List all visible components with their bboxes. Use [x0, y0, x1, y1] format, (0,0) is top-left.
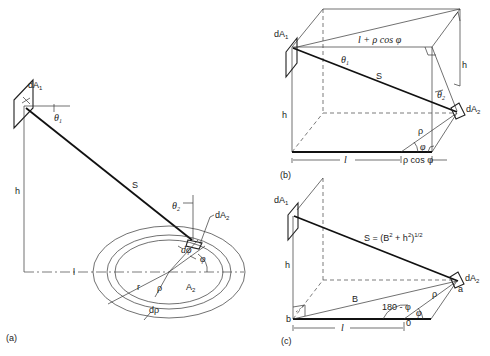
s-line-b: [293, 48, 457, 112]
caption-c: (c): [281, 336, 292, 346]
s-line-a: [26, 108, 192, 240]
svg-text:φ: φ: [416, 307, 422, 318]
svg-text:ρ: ρ: [418, 126, 423, 136]
svg-text:φ: φ: [200, 253, 206, 264]
s-label-a: S: [132, 180, 138, 190]
svg-text:180 - φ: 180 - φ: [382, 302, 411, 312]
s-line-c: [294, 216, 458, 281]
svg-text:ρ: ρ: [432, 289, 437, 299]
svg-text:dA2: dA2: [215, 210, 230, 221]
svg-text:dA1: dA1: [274, 29, 289, 40]
panel-a: dA1 θ1 h S θ2 dA2 dφ φ l r ρ A2 dρ (a): [6, 80, 245, 343]
svg-text:dA1: dA1: [28, 80, 43, 91]
svg-text:dρ: dρ: [149, 305, 159, 315]
svg-text:B: B: [352, 294, 358, 304]
svg-text:S: S: [376, 71, 382, 81]
svg-text:θ2: θ2: [172, 200, 180, 212]
caption-b: (b): [280, 170, 291, 180]
panel-c: dA1 S = (B2 + h2)1/2 h B dA2 a ρ 180 - φ…: [274, 178, 480, 346]
svg-text:l: l: [341, 322, 344, 333]
svg-text:h: h: [462, 60, 467, 70]
svg-text:θ2: θ2: [437, 89, 445, 101]
svg-text:θ1: θ1: [341, 54, 349, 66]
svg-text:φ: φ: [420, 141, 426, 152]
panel-b: dA1 l + ρ cos φ θ1 S h h θ2 dA2 ρ φ l ρ …: [274, 9, 481, 180]
s-equation: S = (B2 + h2)1/2: [364, 232, 423, 243]
svg-text:dφ: dφ: [181, 244, 192, 255]
svg-text:dA2: dA2: [466, 104, 481, 115]
svg-text:dA1: dA1: [274, 195, 289, 206]
h-label-a: h: [15, 186, 20, 196]
svg-text:l: l: [73, 267, 75, 277]
svg-text:r: r: [137, 282, 140, 292]
svg-text:a: a: [458, 284, 463, 294]
svg-text:A2: A2: [186, 282, 196, 293]
svg-text:l: l: [344, 154, 347, 165]
svg-text:dA2: dA2: [465, 273, 480, 284]
svg-text:θ1: θ1: [54, 112, 62, 124]
da1-plate-b: [286, 38, 297, 77]
l-plus-rho-cos-label: l + ρ cos φ: [358, 34, 402, 45]
svg-text:h: h: [285, 260, 290, 270]
svg-text:h: h: [282, 110, 287, 120]
svg-text:ρ cos φ: ρ cos φ: [403, 155, 433, 165]
svg-text:b: b: [286, 314, 291, 324]
caption-a: (a): [6, 333, 17, 343]
svg-text:0: 0: [406, 318, 411, 328]
svg-text:ρ: ρ: [157, 283, 162, 293]
